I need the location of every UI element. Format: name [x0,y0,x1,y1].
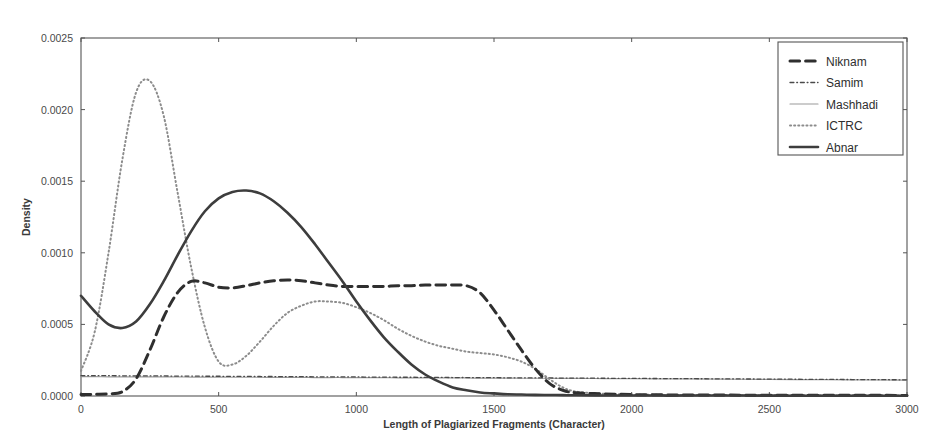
y-axis-tick-labels: 0.00000.00050.00100.00150.00200.0025 [41,32,73,402]
legend-label-niknam: Niknam [826,55,867,69]
chart-canvas: 050010001500200025003000 0.00000.00050.0… [0,0,930,440]
x-tick-label: 1000 [345,403,369,415]
x-tick-label: 3000 [895,403,919,415]
y-tick-label: 0.0005 [41,318,73,330]
legend-label-ictrc: ICTRC [826,119,863,133]
series-curve-abnar [81,190,907,395]
x-tick-label: 2000 [620,403,644,415]
y-tick-label: 0.0020 [41,104,73,116]
y-tick-label: 0.0015 [41,175,73,187]
y-tick-label: 0.0010 [41,247,73,259]
density-plot-figure: 050010001500200025003000 0.00000.00050.0… [0,0,930,440]
x-tick-label: 500 [210,403,228,415]
x-tick-label: 2500 [758,403,782,415]
x-axis-tick-labels: 050010001500200025003000 [78,403,919,415]
y-tick-label: 0.0025 [41,32,73,44]
legend-label-abnar: Abnar [826,141,858,155]
x-tick-label: 0 [78,403,84,415]
x-axis-label: Length of Plagiarized Fragments (Charact… [383,418,605,430]
legend-label-samim: Samim [826,76,863,90]
y-axis-label: Density [20,198,32,236]
x-tick-label: 1500 [482,403,506,415]
y-tick-label: 0.0000 [41,390,73,402]
chart-legend: NiknamSamimMashhadiICTRCAbnar [778,42,903,155]
legend-label-mashhadi: Mashhadi [826,98,878,112]
